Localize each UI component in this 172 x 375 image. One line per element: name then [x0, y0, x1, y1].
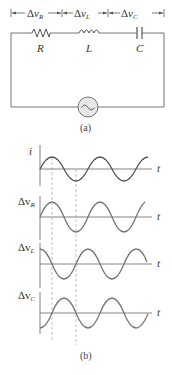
delta-v-l-label: ΔvL	[74, 7, 90, 21]
capacitor-label: C	[136, 42, 144, 54]
caption-b: (b)	[80, 350, 92, 362]
time-label: t	[157, 210, 161, 222]
phase-guide-lines	[52, 157, 76, 345]
inductor-label: L	[85, 42, 92, 54]
resistor-label: R	[36, 42, 44, 54]
delta-v-r-label: ΔvR	[27, 7, 44, 21]
delta-v-l-graph-label: ΔvL	[18, 241, 35, 255]
capacitor-symbol	[137, 27, 142, 39]
delta-v-c-graph-label: ΔvC	[18, 289, 36, 303]
resistor-voltage-graph: ΔvR t	[18, 195, 161, 240]
time-label: t	[157, 257, 161, 269]
time-label: t	[157, 306, 161, 318]
capacitor-voltage-graph: ΔvC t	[18, 289, 161, 334]
delta-v-c-label: ΔvC	[121, 7, 138, 21]
rlc-circuit-figure: ΔvR ΔvL ΔvC R L C (	[0, 0, 172, 375]
resistor-symbol	[32, 29, 50, 37]
waveform-graphs: i t ΔvR t ΔvL t	[18, 145, 161, 362]
current-label: i	[29, 145, 32, 157]
ac-source-symbol	[78, 97, 98, 117]
delta-v-r-graph-label: ΔvR	[18, 195, 36, 209]
time-label: t	[157, 162, 161, 174]
circuit-diagram: ΔvR ΔvL ΔvC R L C (	[11, 7, 164, 134]
caption-a: (a)	[80, 122, 91, 134]
inductor-symbol	[79, 30, 100, 33]
current-graph: i t	[29, 145, 161, 186]
inductor-voltage-graph: ΔvL t	[18, 241, 161, 288]
